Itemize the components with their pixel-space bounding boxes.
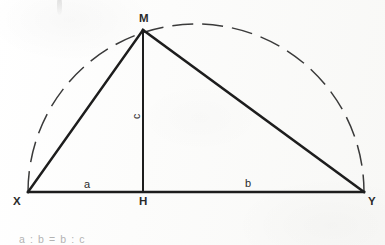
segment-label-a: a bbox=[84, 179, 90, 190]
segment-label-b: b bbox=[245, 178, 251, 189]
proportion-formula: a : b = b : c bbox=[19, 233, 86, 245]
segment-label-c: c bbox=[131, 114, 142, 119]
geometry-figure bbox=[0, 0, 385, 245]
point-label-h: H bbox=[139, 196, 148, 208]
point-label-m: M bbox=[139, 13, 149, 25]
geometry-diagram-page: M X Y H a b c a : b = b : c bbox=[0, 0, 385, 245]
segment-x-to-m bbox=[28, 30, 143, 192]
segment-m-to-y bbox=[143, 30, 364, 192]
point-label-y: Y bbox=[368, 196, 376, 208]
point-label-x: X bbox=[13, 196, 21, 208]
semicircle-arc-dashed bbox=[28, 24, 364, 192]
